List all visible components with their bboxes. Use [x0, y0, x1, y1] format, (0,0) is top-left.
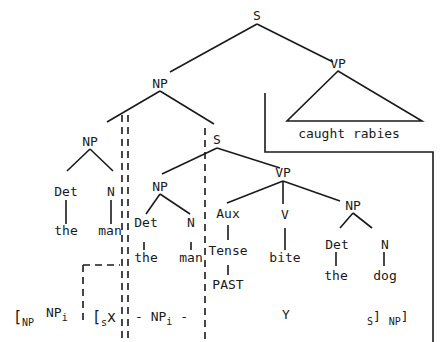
bracket-open-np: [NP [13, 310, 34, 325]
word-dog: dog [373, 269, 396, 282]
edge [162, 148, 217, 174]
edge [353, 213, 372, 228]
bracket-close: S] NP] [367, 310, 409, 323]
node-s-rel: S [213, 133, 221, 146]
edge-s-vp [257, 24, 333, 62]
node-np-top: NP [152, 77, 168, 90]
node-det: Det [325, 238, 348, 251]
edge [340, 213, 353, 228]
edge [217, 148, 280, 168]
node-n: N [187, 216, 195, 229]
node-aux: Aux [216, 207, 239, 220]
bracket-gap: - NPi - [135, 310, 188, 323]
node-vp-rel: VP [275, 166, 291, 179]
edge [90, 149, 113, 171]
edge-np-np [107, 91, 160, 122]
node-vp-top: VP [330, 57, 346, 70]
node-tense: Tense [208, 244, 247, 257]
word-the: the [54, 224, 77, 237]
word-past: PAST [212, 278, 243, 291]
node-v: V [281, 208, 289, 221]
edge [160, 194, 190, 214]
node-n: N [107, 185, 115, 198]
node-s-root: S [253, 9, 261, 22]
word-bite: bite [269, 251, 300, 264]
node-det: Det [54, 185, 77, 198]
vp-triangle [287, 71, 422, 121]
node-det: Det [134, 216, 157, 229]
word-man: man [179, 251, 202, 264]
edge [227, 181, 283, 203]
node-np-left: NP [82, 135, 98, 148]
edge-s-np [170, 24, 257, 72]
word-the: the [324, 269, 347, 282]
edge [146, 194, 160, 214]
bracket-open-s: [sx [92, 310, 116, 325]
node-np-rel: NP [152, 180, 168, 193]
bracket-np-i: NPi [46, 306, 68, 319]
word-the: the [134, 251, 157, 264]
word-man: man [98, 224, 121, 237]
vp-top-text: caught rabies [298, 127, 400, 140]
bracket-y: Y [282, 308, 290, 321]
edge-np-s [160, 91, 214, 124]
node-np-obj: NP [345, 199, 361, 212]
edge [283, 181, 340, 201]
edge [67, 149, 90, 171]
node-n: N [381, 238, 389, 251]
